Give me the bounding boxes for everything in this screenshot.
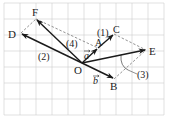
label-D: D — [8, 28, 16, 40]
label-B: B — [110, 80, 117, 92]
label-vec-a: a — [84, 50, 89, 61]
label-F: F — [32, 6, 38, 18]
label-O: O — [74, 64, 82, 76]
label-part-2: (2) — [38, 51, 50, 63]
vector-OE — [82, 50, 145, 63]
label-vec-b: b — [93, 75, 98, 86]
vector-diagram: O A B C D E F a b (1) (2) (3) (4) — [0, 0, 170, 123]
dashed-D-F — [21, 19, 36, 33]
label-C: C — [113, 24, 120, 35]
vector-diagram-canvas: O A B C D E F a b (1) (2) (3) (4) — [0, 0, 170, 123]
label-part-3: (3) — [137, 69, 149, 81]
label-part-1: (1) — [97, 27, 109, 39]
dashed-C-E — [114, 34, 146, 50]
pointer-line-3 — [128, 70, 137, 74]
label-A: A — [95, 37, 103, 48]
label-part-4: (4) — [66, 38, 78, 50]
angle-arc-3 — [121, 55, 128, 70]
label-E: E — [149, 45, 156, 57]
